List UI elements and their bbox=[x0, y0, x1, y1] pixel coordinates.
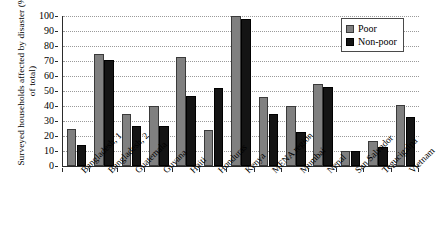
x-tick-mark bbox=[391, 168, 392, 172]
x-tick-mark bbox=[281, 168, 282, 172]
y-tick-mark bbox=[55, 136, 58, 137]
x-tick-label: Bangladesh, 1 bbox=[79, 168, 86, 175]
legend-label: Poor bbox=[358, 23, 377, 34]
bar-poor bbox=[67, 129, 77, 167]
y-axis-tick-labels: 0102030405060708090100 bbox=[16, 16, 58, 166]
x-tick-label: Bangladesh, 2 bbox=[106, 168, 113, 175]
x-tick-mark bbox=[363, 168, 364, 172]
bar-group bbox=[200, 16, 227, 166]
y-tick-label: 70 bbox=[44, 56, 54, 66]
y-tick-label: 60 bbox=[44, 71, 54, 81]
bar-group bbox=[173, 16, 200, 166]
chart-legend: PoorNon-poor bbox=[341, 18, 404, 52]
bar-chart-figure: Surveyed households affected by disaster… bbox=[0, 0, 440, 244]
x-tick-label: MENA region bbox=[270, 168, 277, 175]
legend-entry: Poor bbox=[346, 22, 397, 35]
x-tick-label: Guatemala bbox=[133, 168, 140, 175]
legend-entry: Non-poor bbox=[346, 35, 397, 48]
x-tick-label: Honduras bbox=[216, 168, 223, 175]
x-tick-mark bbox=[199, 168, 200, 172]
y-tick-mark bbox=[55, 61, 58, 62]
x-tick-mark bbox=[62, 168, 63, 172]
bar-non-poor bbox=[269, 114, 279, 167]
y-tick-mark bbox=[55, 76, 58, 77]
x-tick-label: Guyana bbox=[161, 168, 168, 175]
x-tick-mark bbox=[418, 168, 419, 172]
x-tick-mark bbox=[117, 168, 118, 172]
legend-label: Non-poor bbox=[358, 36, 397, 47]
bar-group bbox=[63, 16, 90, 166]
y-tick-mark bbox=[55, 91, 58, 92]
x-tick-mark bbox=[144, 168, 145, 172]
legend-swatch-icon bbox=[346, 25, 354, 33]
x-tick-label: San Salvador bbox=[353, 168, 360, 175]
y-tick-label: 50 bbox=[44, 86, 54, 96]
legend-swatch-icon bbox=[346, 38, 354, 46]
x-tick-label: Haiti bbox=[188, 168, 195, 175]
y-tick-label: 80 bbox=[44, 41, 54, 51]
x-axis-tick-labels: Bangladesh, 1Bangladesh, 2GuatemalaGuyan… bbox=[62, 168, 418, 244]
x-tick-label: Nepal bbox=[325, 168, 332, 175]
x-tick-mark bbox=[254, 168, 255, 172]
x-tick-mark bbox=[336, 168, 337, 172]
y-tick-mark bbox=[55, 166, 58, 167]
y-tick-label: 20 bbox=[44, 131, 54, 141]
y-tick-mark bbox=[55, 106, 58, 107]
y-tick-mark bbox=[55, 31, 58, 32]
bar-non-poor bbox=[214, 88, 224, 166]
x-tick-label: Tegucigalpa bbox=[380, 168, 387, 175]
bar-group bbox=[309, 16, 336, 166]
x-tick-label: Kenya bbox=[243, 168, 250, 175]
y-tick-label: 100 bbox=[39, 11, 54, 21]
y-tick-mark bbox=[55, 46, 58, 47]
bar-non-poor bbox=[186, 96, 196, 167]
y-tick-label: 40 bbox=[44, 101, 54, 111]
y-tick-label: 90 bbox=[44, 26, 54, 36]
y-tick-mark bbox=[55, 151, 58, 152]
bar-group bbox=[255, 16, 282, 166]
y-tick-mark bbox=[55, 16, 58, 17]
y-tick-label: 0 bbox=[49, 161, 54, 171]
y-tick-label: 30 bbox=[44, 116, 54, 126]
x-tick-label: Mumbai bbox=[298, 168, 305, 175]
x-tick-mark bbox=[308, 168, 309, 172]
x-tick-mark bbox=[172, 168, 173, 172]
x-tick-mark bbox=[226, 168, 227, 172]
x-tick-mark bbox=[89, 168, 90, 172]
y-tick-label: 10 bbox=[44, 146, 54, 156]
y-tick-mark bbox=[55, 121, 58, 122]
x-tick-label: Vietnam bbox=[407, 168, 414, 175]
